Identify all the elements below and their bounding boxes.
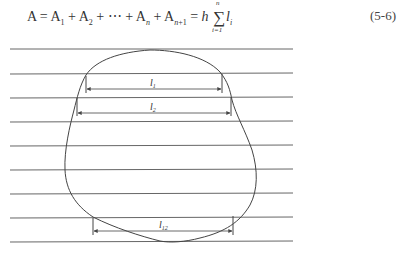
label-l1: l1 [150, 77, 156, 89]
label-l2: l2 [150, 101, 156, 113]
parallel-line [10, 121, 293, 122]
dimension-l1: l1 [86, 74, 222, 93]
dimension-l12: l12 [93, 216, 233, 235]
parallel-line [10, 193, 293, 194]
parallel-line [10, 241, 293, 242]
area-figure: l1 l2 l12 [0, 0, 419, 255]
parallel-line [10, 217, 293, 218]
parallel-line [10, 169, 293, 170]
parallel-line [10, 73, 293, 74]
parallel-line [10, 97, 293, 98]
dimension-l2: l2 [77, 97, 231, 116]
label-l12: l12 [159, 219, 168, 231]
